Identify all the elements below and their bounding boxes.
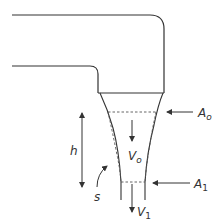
label-v-1: V1 bbox=[137, 205, 151, 221]
jet-boundary bbox=[100, 93, 163, 200]
label-v-o: Vo bbox=[128, 149, 142, 165]
pipe-outer-wall bbox=[12, 15, 164, 93]
label-a-o: Ao bbox=[197, 106, 212, 122]
nozzle-jet-diagram: Ao A1 Vo V1 h s bbox=[0, 0, 222, 224]
pipe-body bbox=[12, 15, 164, 93]
label-a-1: A1 bbox=[193, 177, 208, 193]
jet-left-wall bbox=[100, 93, 121, 200]
pipe-inner-wall bbox=[12, 66, 98, 93]
label-s: s bbox=[94, 190, 100, 204]
streamline-s-arrow bbox=[97, 166, 107, 187]
jet-right-wall bbox=[145, 93, 163, 200]
label-h: h bbox=[70, 144, 78, 158]
streamline-left bbox=[108, 112, 121, 182]
